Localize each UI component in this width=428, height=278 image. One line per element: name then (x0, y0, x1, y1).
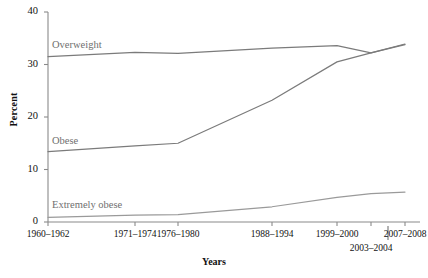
source-note (8, 271, 420, 278)
series-label-obese: Obese (52, 135, 78, 146)
x-axis-tick-label: 2007–2008 (374, 229, 428, 239)
y-axis-ticks (44, 12, 48, 222)
y-axis-tick-label: 40 (14, 5, 38, 16)
y-axis-tick-label: 10 (14, 163, 38, 174)
x-axis-tick-label: 2003–2004 (340, 243, 402, 253)
series-label-overweight: Overweight (52, 39, 102, 50)
series-line-obese (48, 44, 405, 152)
data-series-lines (48, 44, 405, 217)
x-axis-tick-label: 1988–1994 (241, 229, 303, 239)
y-axis-tick-label: 20 (14, 110, 38, 121)
y-axis-tick-label: 0 (14, 215, 38, 226)
series-label-extremely-obese: Extremely obese (52, 199, 122, 210)
x-axis-tick-label: 1960–1962 (17, 229, 79, 239)
y-axis-tick-label: 30 (14, 58, 38, 69)
chart-figure: Percent 403020100 1960–19621971–19741976… (0, 0, 428, 278)
x-axis-title: Years (0, 256, 428, 267)
x-axis-tick-label: 1999–2000 (306, 229, 368, 239)
x-axis-tick-label: 1976–1980 (147, 229, 209, 239)
x-axis-ticks (48, 222, 405, 226)
